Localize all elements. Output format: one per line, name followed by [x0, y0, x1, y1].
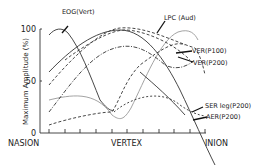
label-lpc: LPC (Aud) [164, 14, 196, 22]
curve-ver-p100-seg [140, 72, 185, 115]
x-ticks [49, 129, 205, 133]
label-aer: AER(P200) [206, 113, 240, 121]
y-tick-0: 0 [31, 129, 36, 138]
leader-lines [62, 21, 207, 120]
label-ver-p100: VER(P100) [192, 47, 226, 55]
x-label-nasion: NASION [8, 139, 39, 148]
curve-top-right [65, 30, 190, 60]
label-eog: EOG(Vert) [62, 8, 95, 16]
y-axis-label: Maximum Amplitude (%) [22, 38, 30, 125]
x-label-inion: INION [205, 139, 228, 148]
curve-lpc [49, 44, 185, 125]
curve-ser [49, 28, 205, 85]
label-ser-leg: SER leg(P200) [205, 102, 251, 110]
x-label-vertex: VERTEX [111, 139, 142, 148]
y-tick-100: 100 [21, 25, 36, 34]
amplitude-chart: 100 50 0 Maximum Amplitude (%) NASION VE… [0, 0, 263, 165]
label-ver-p200: VER(P200) [193, 59, 227, 67]
